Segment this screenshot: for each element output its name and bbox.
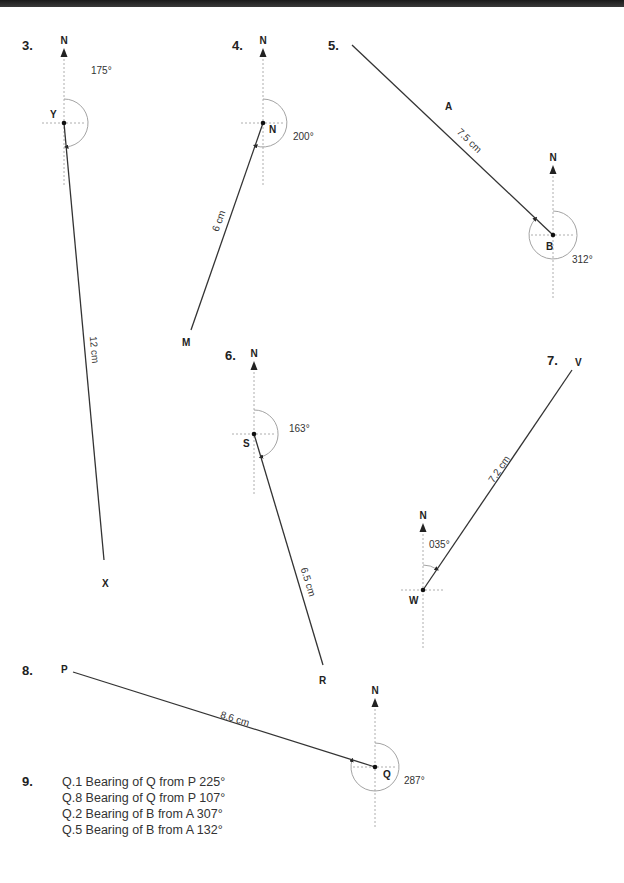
distance-label: 7.2 cm bbox=[486, 454, 512, 485]
center-point bbox=[252, 432, 257, 437]
end-point-label: A bbox=[445, 101, 452, 112]
end-point-label: P bbox=[61, 664, 68, 675]
diagram-6: 6.NSR6.5 cm163° bbox=[225, 348, 327, 686]
center-point-label: Y bbox=[50, 109, 57, 120]
bearing-arc bbox=[423, 565, 437, 569]
center-point bbox=[421, 588, 426, 593]
center-point bbox=[62, 121, 67, 126]
north-arrow-icon bbox=[372, 698, 379, 707]
north-label: N bbox=[371, 685, 378, 696]
distance-label: 12 cm bbox=[88, 336, 101, 364]
center-point-label: S bbox=[243, 438, 250, 449]
question-number: 7. bbox=[547, 353, 558, 368]
center-point bbox=[261, 121, 266, 126]
north-label: N bbox=[250, 348, 257, 359]
question-number-9: 9. bbox=[22, 774, 62, 838]
north-arrow-icon bbox=[550, 165, 557, 174]
north-arrow-icon bbox=[420, 523, 427, 532]
center-point bbox=[551, 233, 556, 238]
answers-list: Q.1 Bearing of Q from P 225° Q.8 Bearing… bbox=[62, 774, 225, 838]
end-point-label: R bbox=[319, 675, 327, 686]
question-number: 3. bbox=[22, 38, 33, 53]
bearing-line bbox=[254, 434, 323, 665]
north-label: N bbox=[419, 510, 426, 521]
end-point-label: X bbox=[102, 578, 109, 589]
bearing-angle-label: 163° bbox=[289, 423, 310, 434]
answer-item: Q.8 Bearing of Q from P 107° bbox=[62, 790, 225, 806]
bearing-angle-label: 035° bbox=[429, 539, 450, 550]
diagram-5: 5.NBA7.5 cm312° bbox=[328, 38, 593, 298]
question-number: 4. bbox=[232, 38, 243, 53]
north-arrow-icon bbox=[251, 361, 258, 370]
bearing-angle-label: 287° bbox=[404, 775, 425, 786]
bearing-angle-label: 312° bbox=[572, 254, 593, 265]
end-point-label: V bbox=[575, 357, 582, 368]
end-point-label: M bbox=[182, 337, 190, 348]
north-arrow-icon bbox=[61, 48, 68, 57]
north-label: N bbox=[549, 152, 556, 163]
bearing-angle-label: 200° bbox=[293, 131, 314, 142]
question-number: 6. bbox=[225, 348, 236, 363]
center-point-label: Q bbox=[383, 769, 391, 780]
distance-label: 8.6 cm bbox=[219, 709, 251, 728]
diagram-7: 7.NWV7.2 cm035° bbox=[401, 353, 582, 650]
bearing-line bbox=[191, 123, 263, 330]
answer-item: Q.2 Bearing of B from A 307° bbox=[62, 806, 225, 822]
center-point-label: B bbox=[546, 241, 553, 252]
diagram-3: 3.NYX12 cm175° bbox=[22, 35, 112, 589]
answer-item: Q.5 Bearing of B from A 132° bbox=[62, 822, 225, 838]
distance-label: 6 cm bbox=[210, 209, 228, 233]
center-point bbox=[373, 765, 378, 770]
north-arrow-icon bbox=[260, 48, 267, 57]
north-label: N bbox=[60, 35, 67, 46]
distance-label: 7.5 cm bbox=[455, 126, 484, 155]
answer-item: Q.1 Bearing of Q from P 225° bbox=[62, 774, 225, 790]
answers-section: 9. Q.1 Bearing of Q from P 225° Q.8 Bear… bbox=[22, 774, 225, 838]
center-point-label: W bbox=[409, 595, 419, 606]
bearings-diagram-canvas: 3.NYX12 cm175° 4.NNM6 cm200° 5.NBA7.5 cm… bbox=[0, 0, 624, 883]
north-label: N bbox=[259, 35, 266, 46]
center-point-label: N bbox=[269, 124, 276, 135]
question-number: 5. bbox=[328, 38, 339, 53]
question-number: 8. bbox=[22, 663, 33, 678]
bearing-arc bbox=[254, 410, 278, 457]
bearing-angle-label: 175° bbox=[91, 65, 112, 76]
bearing-line bbox=[352, 45, 553, 235]
diagram-4: 4.NNM6 cm200° bbox=[182, 35, 314, 348]
